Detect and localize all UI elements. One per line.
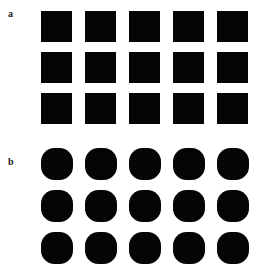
shape-square xyxy=(85,93,116,124)
shape-square xyxy=(85,52,116,83)
shape-square xyxy=(129,11,160,42)
shape-square xyxy=(41,93,72,124)
shape-square xyxy=(41,52,72,83)
panel-b-shape-grid xyxy=(41,148,248,264)
shape-circle xyxy=(85,148,117,180)
shape-circle xyxy=(41,232,73,264)
shape-square xyxy=(129,93,160,124)
shape-circle xyxy=(173,190,205,222)
shape-circle xyxy=(129,232,161,264)
panel-label-a: a xyxy=(8,9,13,19)
shape-circle xyxy=(41,190,73,222)
shape-circle xyxy=(173,232,205,264)
panel-a-shape-grid xyxy=(41,11,248,124)
shape-circle xyxy=(129,190,161,222)
shape-circle xyxy=(217,190,249,222)
figure-canvas: a b xyxy=(0,0,269,273)
shape-square xyxy=(129,52,160,83)
shape-square xyxy=(41,11,72,42)
shape-square xyxy=(85,11,116,42)
shape-circle xyxy=(129,148,161,180)
shape-circle xyxy=(173,148,205,180)
shape-square xyxy=(173,52,204,83)
panel-label-b: b xyxy=(8,157,14,167)
shape-square xyxy=(217,93,248,124)
shape-circle xyxy=(217,148,249,180)
shape-square xyxy=(173,93,204,124)
shape-square xyxy=(173,11,204,42)
shape-square xyxy=(217,11,248,42)
shape-circle xyxy=(41,148,73,180)
shape-circle xyxy=(217,232,249,264)
shape-circle xyxy=(85,190,117,222)
shape-square xyxy=(217,52,248,83)
shape-circle xyxy=(85,232,117,264)
